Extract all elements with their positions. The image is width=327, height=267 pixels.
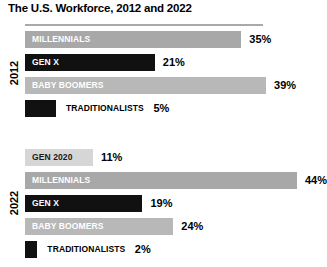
bar-value-label: 2% xyxy=(135,241,151,258)
bar-category-label: TRADITIONALISTS xyxy=(47,241,125,258)
bar-row: MILLENNIALS44% xyxy=(25,172,326,189)
bar-value-label: 5% xyxy=(153,100,169,117)
bar-value-label: 24% xyxy=(181,218,203,235)
bar-category-label: GEN X xyxy=(32,54,59,71)
bar-value-label: 35% xyxy=(249,31,271,48)
bar-row: BABY BOOMERS39% xyxy=(25,77,326,94)
bar-value-label: 21% xyxy=(163,54,185,71)
bar-value-label: 44% xyxy=(305,172,327,189)
title-divider xyxy=(25,24,263,26)
bar-value-label: 19% xyxy=(150,195,172,212)
bar xyxy=(25,241,37,258)
bar xyxy=(25,100,56,117)
year-group-2022: 2022GEN 202011%MILLENNIALS44%GEN X19%BAB… xyxy=(0,149,326,258)
bar-category-label: MILLENNIALS xyxy=(32,172,90,189)
axis-label-year-2012: 2012 xyxy=(8,61,20,85)
bar-row: BABY BOOMERS24% xyxy=(25,218,326,235)
bar-category-label: TRADITIONALISTS xyxy=(66,100,144,117)
axis-label-year-2022: 2022 xyxy=(8,190,20,214)
chart-title: The U.S. Workforce, 2012 and 2022 xyxy=(8,2,192,14)
bar-row: GEN 202011% xyxy=(25,149,326,166)
bar-category-label: MILLENNIALS xyxy=(32,31,90,48)
bar-value-label: 39% xyxy=(274,77,296,94)
bar-category-label: GEN X xyxy=(32,195,59,212)
bar-row: TRADITIONALISTS5% xyxy=(25,100,326,117)
bar-category-label: BABY BOOMERS xyxy=(32,218,103,235)
bar-row: MILLENNIALS35% xyxy=(25,31,326,48)
bar-row: GEN X21% xyxy=(25,54,326,71)
bar-value-label: 11% xyxy=(101,149,122,166)
bar-category-label: GEN 2020 xyxy=(32,149,73,166)
year-group-2012: 2012MILLENNIALS35%GEN X21%BABY BOOMERS39… xyxy=(0,31,326,117)
bar-row: GEN X19% xyxy=(25,195,326,212)
bar-row: TRADITIONALISTS2% xyxy=(25,241,326,258)
bar-category-label: BABY BOOMERS xyxy=(32,77,103,94)
